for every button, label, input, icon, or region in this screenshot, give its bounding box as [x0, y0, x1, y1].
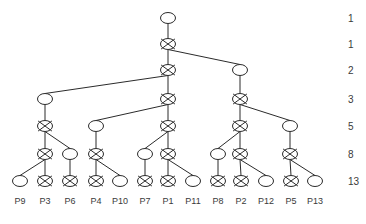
- node-ellipse: [89, 121, 104, 132]
- node-ellipse: [138, 149, 153, 160]
- tree-node-crossed[interactable]: [233, 94, 248, 105]
- cluster-count-label: 1: [348, 39, 354, 50]
- node-ellipse: [233, 65, 248, 76]
- tree-node-crossed[interactable]: [211, 176, 226, 187]
- tree-node-crossed[interactable]: [161, 39, 176, 50]
- leaf-label: P7: [139, 196, 150, 206]
- tree-node-crossed[interactable]: [138, 176, 153, 187]
- leaf-label: P12: [258, 196, 274, 206]
- leaf-label: P4: [90, 196, 101, 206]
- tree-node-open[interactable]: [113, 176, 128, 187]
- node-ellipse: [186, 176, 201, 187]
- leaf-label: P6: [64, 196, 75, 206]
- leaf-label: P11: [185, 196, 200, 206]
- tree-edge: [240, 160, 241, 176]
- tree-edge: [45, 76, 168, 94]
- tree-edge: [145, 132, 168, 149]
- leaf-label: P1: [162, 196, 173, 206]
- cluster-count-labels: 11235813: [348, 13, 360, 187]
- leaf-label: P13: [307, 196, 323, 206]
- cluster-count-label: 13: [348, 176, 360, 187]
- tree-node-crossed[interactable]: [161, 149, 176, 160]
- node-ellipse: [13, 176, 28, 187]
- cluster-count-label: 2: [348, 65, 354, 76]
- tree-node-open[interactable]: [211, 149, 226, 160]
- tree-node-open[interactable]: [259, 176, 274, 187]
- tree-node-crossed[interactable]: [284, 176, 299, 187]
- tree-node-crossed[interactable]: [161, 94, 176, 105]
- tree-node-open[interactable]: [233, 65, 248, 76]
- tree-node-crossed[interactable]: [38, 176, 53, 187]
- node-ellipse: [259, 176, 274, 187]
- leaf-label: P2: [235, 196, 246, 206]
- tree-edge: [96, 105, 168, 121]
- tree-edge: [45, 132, 70, 149]
- leaf-label: P9: [14, 196, 25, 206]
- node-ellipse: [308, 176, 323, 187]
- tree-node-crossed[interactable]: [161, 121, 176, 132]
- leaf-label: P8: [212, 196, 223, 206]
- tree-edge: [240, 160, 266, 176]
- tree-node-open[interactable]: [38, 94, 53, 105]
- cluster-count-label: 5: [348, 121, 354, 132]
- tree-node-crossed[interactable]: [63, 176, 78, 187]
- tree-node-open[interactable]: [89, 121, 104, 132]
- tree-node-crossed[interactable]: [233, 121, 248, 132]
- leaf-label: P5: [285, 196, 296, 206]
- leaf-labels-layer: P9P3P6P4P10P7P1P11P8P2P12P5P13: [14, 196, 323, 206]
- tree-canvas: P9P3P6P4P10P7P1P11P8P2P12P5P13 11235813: [0, 0, 366, 224]
- tree-edge: [290, 160, 291, 176]
- tree-node-crossed[interactable]: [38, 149, 53, 160]
- tree-node-open[interactable]: [161, 13, 176, 24]
- tree-node-open[interactable]: [138, 149, 153, 160]
- tree-edge: [218, 132, 240, 149]
- tree-node-crossed[interactable]: [161, 176, 176, 187]
- tree-node-crossed[interactable]: [38, 121, 53, 132]
- node-ellipse: [113, 176, 128, 187]
- tree-node-open[interactable]: [13, 176, 28, 187]
- node-ellipse: [63, 149, 78, 160]
- tree-node-open[interactable]: [308, 176, 323, 187]
- tree-node-crossed[interactable]: [89, 176, 104, 187]
- node-ellipse: [283, 121, 298, 132]
- tree-node-open[interactable]: [63, 149, 78, 160]
- node-ellipse: [38, 94, 53, 105]
- tree-edge: [168, 50, 240, 65]
- leaf-label: P3: [39, 196, 50, 206]
- tree-edge: [240, 105, 290, 121]
- cluster-count-label: 3: [348, 94, 354, 105]
- node-ellipse: [161, 13, 176, 24]
- dendrogram-figure: P9P3P6P4P10P7P1P11P8P2P12P5P13 11235813: [0, 0, 366, 224]
- tree-node-crossed[interactable]: [234, 176, 249, 187]
- tree-edge: [20, 160, 45, 176]
- leaf-label: P10: [112, 196, 128, 206]
- node-ellipse: [211, 149, 226, 160]
- tree-edge: [168, 160, 193, 176]
- tree-node-open[interactable]: [186, 176, 201, 187]
- cluster-count-label: 1: [348, 13, 354, 24]
- tree-node-crossed[interactable]: [89, 149, 104, 160]
- tree-node-crossed[interactable]: [161, 65, 176, 76]
- tree-node-crossed[interactable]: [283, 149, 298, 160]
- cluster-count-label: 8: [348, 149, 354, 160]
- tree-edge: [96, 160, 120, 176]
- tree-edge: [290, 160, 315, 176]
- tree-node-crossed[interactable]: [233, 149, 248, 160]
- tree-node-open[interactable]: [283, 121, 298, 132]
